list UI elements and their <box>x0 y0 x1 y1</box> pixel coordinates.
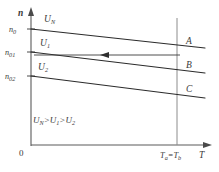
curve-label-U1: U1 <box>40 38 50 49</box>
x-axis-arrowhead <box>203 142 212 148</box>
curve-label-U2: U2 <box>38 62 48 73</box>
decreasing-voltage-arrow <box>34 52 180 58</box>
curve-label-UN: UN <box>44 14 56 25</box>
y-tick-label-n01: n01 <box>5 48 15 58</box>
y-tick-label-n0: n0 <box>9 25 17 35</box>
x-axis-label: T <box>199 150 205 160</box>
operating-point-label-b: B <box>186 60 192 70</box>
voltage-inequality-annotation: UN>U1>U2 <box>33 115 75 126</box>
decreasing-voltage-arrowhead <box>100 52 109 58</box>
origin-label: 0 <box>19 148 24 158</box>
y-axis-arrowhead <box>28 7 34 16</box>
x-marker-label: Ta=Tb <box>160 151 181 161</box>
x-axis <box>31 142 212 148</box>
curve-UN <box>31 29 205 48</box>
y-axis-label: n <box>18 8 23 18</box>
diagram-canvas: n T 0 n0 n01 n02 UN U1 U2 A B C <box>0 0 219 172</box>
operating-point-label-c: C <box>186 84 193 94</box>
operating-point-label-a: A <box>185 36 192 46</box>
curve-U2 <box>31 76 205 98</box>
y-tick-label-n02: n02 <box>5 72 15 82</box>
